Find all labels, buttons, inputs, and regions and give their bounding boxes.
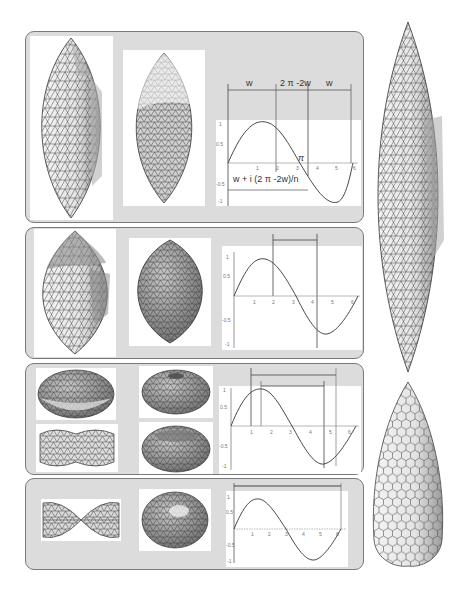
torus-shaded-surface [139, 489, 211, 551]
ovoid-open-surface [34, 229, 116, 357]
hex-egg-surface [370, 380, 446, 570]
sine-chart-2: 1 2 3 4 5 6 1 0.5 -0.5 -1 [222, 232, 362, 350]
svg-text:6: 6 [348, 429, 351, 435]
svg-text:-0.5: -0.5 [222, 317, 231, 323]
pi-label: π [298, 153, 305, 163]
chart-2: 1 2 3 4 5 6 1 0.5 -0.5 -1 [222, 232, 362, 350]
torus-bottom-surface [139, 422, 213, 474]
svg-text:-0.5: -0.5 [219, 443, 228, 449]
chart-4: 1 2 3 4 5 6 1 0.5 -0.5 -1 [226, 481, 348, 567]
torus-shaded-image [139, 489, 211, 551]
svg-text:-1: -1 [225, 341, 230, 347]
svg-text:-1: -1 [227, 558, 232, 564]
chart-3: 1 2 3 4 5 6 1 0.5 -0.5 -1 [219, 366, 361, 474]
svg-text:1: 1 [226, 254, 229, 260]
svg-text:0.5: 0.5 [220, 404, 227, 410]
svg-text:0.5: 0.5 [223, 273, 230, 279]
svg-text:6: 6 [353, 165, 356, 171]
ovoid-open-image [34, 229, 116, 357]
svg-text:-1: -1 [218, 198, 223, 204]
w-left-label: w [245, 78, 253, 88]
svg-text:2: 2 [268, 531, 271, 537]
svg-text:3: 3 [296, 165, 299, 171]
lemon-open-surface [30, 36, 113, 220]
spindle-surface [366, 20, 450, 375]
ovoid-shaded-surface [129, 238, 211, 346]
ovoid-shaded-image [129, 238, 211, 346]
hourglass-surface [41, 499, 121, 541]
svg-text:1: 1 [256, 165, 259, 171]
lemon-shaded-image [123, 50, 205, 206]
svg-text:1: 1 [227, 494, 230, 500]
pinched-surface [36, 424, 118, 472]
w-right-label: w [325, 78, 333, 88]
svg-text:5: 5 [329, 429, 332, 435]
svg-text:3: 3 [292, 299, 295, 305]
lemon-open-image [30, 36, 113, 220]
svg-text:2: 2 [270, 429, 273, 435]
svg-text:4: 4 [316, 165, 319, 171]
svg-text:5: 5 [331, 299, 334, 305]
sine-chart-1: w 2 π -2w w 1 2 3 4 5 6 1 0.5 -0.5 -1 π … [216, 76, 361, 211]
oblate-image [36, 368, 116, 420]
oblate-surface [36, 368, 116, 420]
sine-chart-3: 1 2 3 4 5 6 1 0.5 -0.5 -1 [219, 366, 361, 474]
svg-text:4: 4 [309, 429, 312, 435]
svg-text:0.5: 0.5 [226, 509, 233, 515]
spindle-shape [366, 20, 450, 375]
svg-text:1: 1 [250, 429, 253, 435]
svg-text:4: 4 [311, 299, 314, 305]
svg-text:-0.5: -0.5 [216, 181, 225, 187]
torus-top-image [139, 366, 213, 418]
hex-egg-shape [370, 380, 446, 570]
svg-text:3: 3 [289, 429, 292, 435]
svg-text:1: 1 [223, 387, 226, 393]
svg-text:2: 2 [276, 165, 279, 171]
chart-1: w 2 π -2w w 1 2 3 4 5 6 1 0.5 -0.5 -1 π … [216, 76, 361, 211]
panel-1: w 2 π -2w w 1 2 3 4 5 6 1 0.5 -0.5 -1 π … [25, 31, 364, 223]
panel-3: 1 2 3 4 5 6 1 0.5 -0.5 -1 [25, 363, 364, 475]
pinched-image [36, 424, 118, 472]
svg-text:-1: -1 [222, 463, 227, 469]
panel-2: 1 2 3 4 5 6 1 0.5 -0.5 -1 [25, 227, 364, 359]
sine-chart-4: 1 2 3 4 5 6 1 0.5 -0.5 -1 [226, 481, 348, 567]
lemon-shaded-surface [123, 50, 205, 206]
svg-text:-0.5: -0.5 [226, 542, 235, 548]
svg-text:5: 5 [335, 165, 338, 171]
svg-text:1: 1 [219, 121, 222, 127]
torus-top-surface [139, 366, 213, 418]
two-pi-minus-2w-label: 2 π -2w [280, 78, 311, 88]
svg-text:1: 1 [251, 531, 254, 537]
svg-text:1: 1 [253, 299, 256, 305]
torus-bottom-image [139, 422, 213, 474]
svg-text:4: 4 [302, 531, 305, 537]
panel-4: 1 2 3 4 5 6 1 0.5 -0.5 -1 [25, 478, 364, 570]
hourglass-image [41, 499, 121, 541]
svg-text:2: 2 [272, 299, 275, 305]
svg-text:5: 5 [319, 531, 322, 537]
formula-label: w + i (2 π -2w)/n [232, 174, 298, 184]
svg-text:0.5: 0.5 [216, 141, 223, 147]
